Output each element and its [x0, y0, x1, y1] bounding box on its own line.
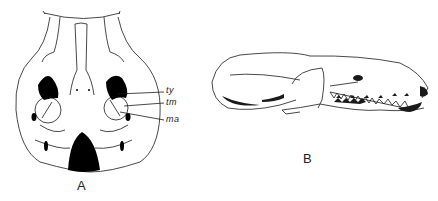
panel-label-b: B: [303, 151, 312, 166]
panel-label-a: A: [77, 178, 86, 193]
annotation-tm: tm: [166, 97, 177, 107]
annotation-ty: ty: [166, 85, 174, 95]
figure: ty tm ma A: [0, 0, 438, 201]
annotation-ma: ma: [166, 114, 180, 124]
